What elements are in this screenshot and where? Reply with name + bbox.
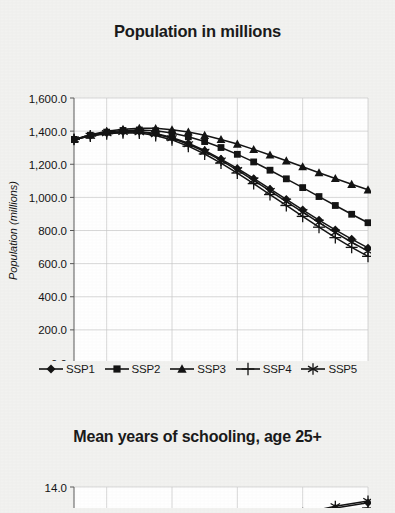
legend-item-ssp3[interactable]: SSP3	[169, 362, 226, 376]
y-axis-tick-label: 400.0	[38, 291, 67, 303]
legend-item-ssp1[interactable]: SSP1	[38, 362, 95, 376]
schooling-chart-title: Mean years of schooling, age 25+	[0, 425, 395, 446]
schooling-plot-area: 14.012.0	[0, 446, 395, 508]
y-axis-tick-label: 1,200.0	[29, 159, 67, 171]
data-point-square	[316, 193, 323, 200]
data-point-square	[218, 144, 225, 151]
population-plot-area: 0.0200.0400.0600.0800.01,000.01,200.01,4…	[0, 41, 395, 361]
y-axis-tick-label: 1,600.0	[29, 93, 67, 105]
y-axis-tick-label: 1,000.0	[29, 192, 67, 204]
y-axis-title: Population (millions)	[7, 181, 19, 280]
legend-label: SSP1	[66, 363, 95, 375]
data-point-square	[299, 184, 306, 191]
data-point-square	[201, 138, 208, 145]
legend-marker-diamond-icon	[38, 362, 64, 376]
data-point-square	[234, 151, 241, 158]
data-point-square	[365, 219, 372, 226]
data-point-square	[332, 202, 339, 209]
population-chart-figure: Population in millions 0.0200.0400.0600.…	[0, 0, 395, 355]
legend-label: SSP3	[197, 363, 226, 375]
plot-background	[74, 487, 368, 508]
schooling-chart-figure: Mean years of schooling, age 25+ 14.012.…	[0, 425, 395, 513]
legend-label: SSP5	[328, 363, 357, 375]
population-plot-svg: 0.0200.0400.0600.0800.01,000.01,200.01,4…	[0, 41, 395, 361]
legend-marker-asterisk-icon	[300, 362, 326, 376]
schooling-plot-svg: 14.012.0	[0, 446, 395, 508]
y-axis-tick-label: 200.0	[38, 324, 67, 336]
legend-marker-square-icon	[104, 362, 130, 376]
legend-label: SSP2	[132, 363, 161, 375]
data-point-square	[283, 175, 290, 182]
y-axis-tick-label: 1,400.0	[29, 126, 67, 138]
data-point-square	[267, 167, 274, 174]
data-point-square	[348, 211, 355, 218]
series-legend: SSP1SSP2SSP3SSP4SSP5	[0, 362, 395, 376]
legend-item-ssp2[interactable]: SSP2	[104, 362, 161, 376]
legend-label: SSP4	[263, 363, 292, 375]
population-chart-title: Population in millions	[0, 0, 395, 41]
y-axis-tick-label: 0.0	[51, 358, 67, 362]
y-axis-tick-label: 800.0	[38, 225, 67, 237]
legend-diamond-icon	[46, 365, 55, 374]
legend-item-ssp4[interactable]: SSP4	[235, 362, 292, 376]
legend-marker-triangle-icon	[169, 362, 195, 376]
legend-marker-plus-icon	[235, 362, 261, 376]
y-axis-tick-label: 14.0	[45, 482, 67, 494]
legend-square-icon	[113, 365, 120, 372]
data-point-square	[250, 159, 257, 166]
legend-item-ssp5[interactable]: SSP5	[300, 362, 357, 376]
legend-plus-icon	[241, 363, 254, 376]
y-axis-tick-label: 600.0	[38, 258, 67, 270]
